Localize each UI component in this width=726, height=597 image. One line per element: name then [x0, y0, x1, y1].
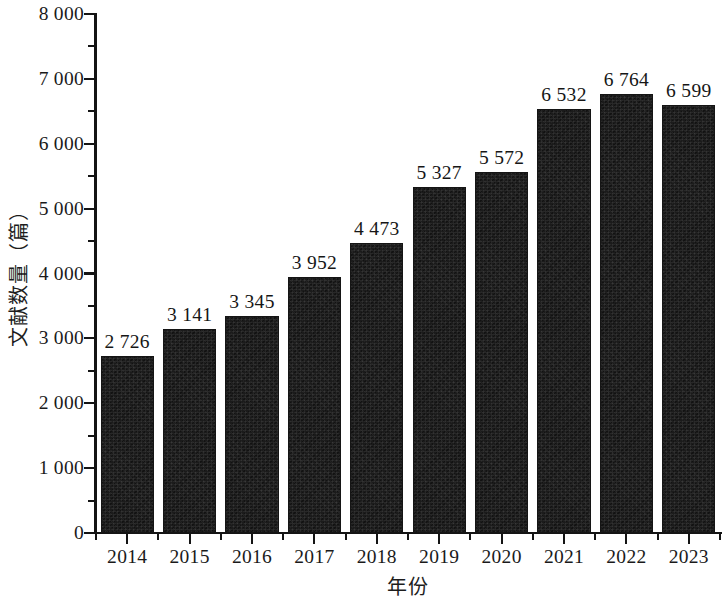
x-axis-tick [376, 533, 378, 544]
y-axis-tick-label: 4 000 [39, 263, 84, 285]
bar [600, 94, 653, 533]
x-axis-tick [126, 533, 128, 544]
bar [288, 277, 341, 533]
x-axis-tick-label: 2015 [169, 546, 209, 568]
y-axis-tick-label: 5 000 [39, 198, 84, 220]
x-axis-tick [438, 533, 440, 544]
y-axis-tick [84, 78, 95, 80]
y-axis-tick [84, 143, 95, 145]
x-axis-minor-tick [594, 533, 596, 540]
bar-value-label: 6 764 [604, 69, 649, 91]
y-axis-tick-label: 8 000 [39, 3, 84, 25]
bar-value-label: 3 141 [167, 304, 212, 326]
x-axis-minor-tick [282, 533, 284, 540]
bar [537, 109, 590, 533]
x-axis-minor-tick [157, 533, 159, 540]
y-axis-tick [84, 208, 95, 210]
y-axis-minor-tick [88, 240, 95, 242]
y-axis-tick-label: 0 [74, 522, 84, 544]
y-axis-title: 文献数量（篇） [4, 14, 30, 533]
bar [101, 356, 154, 533]
bar [225, 316, 278, 533]
y-axis-minor-tick [88, 45, 95, 47]
bar-value-label: 5 572 [479, 147, 524, 169]
bar-value-label: 6 532 [541, 84, 586, 106]
y-axis-tick-label: 2 000 [39, 392, 84, 414]
x-axis-minor-tick [407, 533, 409, 540]
y-axis-tick-label: 3 000 [39, 327, 84, 349]
y-axis-tick [84, 467, 95, 469]
x-axis-tick-label: 2020 [481, 546, 521, 568]
x-axis-tick-label: 2019 [419, 546, 459, 568]
bar-value-label: 6 599 [666, 80, 711, 102]
bar [662, 105, 715, 533]
y-axis-tick [84, 272, 95, 274]
y-axis-tick [84, 13, 95, 15]
bar [163, 329, 216, 533]
y-axis-minor-tick [88, 110, 95, 112]
x-axis-tick [625, 533, 627, 544]
x-axis-minor-tick [469, 533, 471, 540]
bar-chart: 文献数量（篇） 01 0002 0003 0004 0005 0006 0007… [0, 0, 726, 597]
bar-value-label: 5 327 [417, 162, 462, 184]
x-axis-tick [251, 533, 253, 544]
bar [475, 172, 528, 533]
y-axis-tick [84, 337, 95, 339]
bar-value-label: 2 726 [105, 331, 150, 353]
x-axis-minor-tick [220, 533, 222, 540]
y-axis-tick [84, 532, 95, 534]
plot-area [96, 14, 720, 533]
bar-value-label: 4 473 [354, 218, 399, 240]
bar-value-label: 3 952 [292, 252, 337, 274]
x-axis-minor-tick [657, 533, 659, 540]
y-axis-tick-label: 1 000 [39, 457, 84, 479]
bar [350, 243, 403, 533]
x-axis-minor-tick [532, 533, 534, 540]
bar-value-label: 3 345 [229, 291, 274, 313]
x-axis-tick [189, 533, 191, 544]
x-axis-tick-label: 2022 [606, 546, 646, 568]
y-axis-tick-label: 7 000 [39, 68, 84, 90]
x-axis-tick-label: 2023 [669, 546, 709, 568]
x-axis-tick-label: 2016 [232, 546, 272, 568]
x-axis-minor-tick [719, 533, 721, 540]
x-axis-tick-label: 2014 [107, 546, 147, 568]
y-axis-tick [84, 402, 95, 404]
x-axis-tick [688, 533, 690, 544]
y-axis-minor-tick [88, 500, 95, 502]
x-axis-tick-label: 2021 [544, 546, 584, 568]
x-axis-tick-label: 2018 [357, 546, 397, 568]
y-axis-tick-label: 6 000 [39, 133, 84, 155]
y-axis-minor-tick [88, 175, 95, 177]
x-axis-minor-tick [95, 533, 97, 540]
x-axis-tick [563, 533, 565, 544]
bar [413, 187, 466, 533]
y-axis-minor-tick [88, 370, 95, 372]
x-axis-minor-tick [345, 533, 347, 540]
x-axis-tick [313, 533, 315, 544]
x-axis-title: 年份 [96, 571, 720, 597]
x-axis-tick-label: 2017 [294, 546, 334, 568]
x-axis-tick [501, 533, 503, 544]
y-axis-minor-tick [88, 435, 95, 437]
y-axis-minor-tick [88, 305, 95, 307]
